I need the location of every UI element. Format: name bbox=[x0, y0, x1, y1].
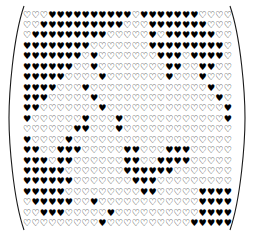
heart-outline-icon: ♡ bbox=[173, 166, 181, 175]
heart-outline-icon: ♡ bbox=[224, 51, 232, 60]
heart-outline-icon: ♡ bbox=[182, 135, 190, 144]
heart-outline-icon: ♡ bbox=[148, 197, 156, 206]
heart-outline-icon: ♡ bbox=[215, 114, 223, 123]
heart-outline-icon: ♡ bbox=[115, 41, 123, 50]
heart-filled-icon: ♥ bbox=[48, 51, 56, 60]
heart-outline-icon: ♡ bbox=[73, 114, 81, 123]
heart-filled-icon: ♥ bbox=[40, 51, 48, 60]
heart-outline-icon: ♡ bbox=[115, 62, 123, 71]
heart-outline-icon: ♡ bbox=[40, 124, 48, 133]
heart-outline-icon: ♡ bbox=[173, 124, 181, 133]
heart-filled-icon: ♥ bbox=[90, 62, 98, 71]
heart-outline-icon: ♡ bbox=[31, 20, 39, 29]
heart-outline-icon: ♡ bbox=[82, 208, 90, 217]
heart-outline-icon: ♡ bbox=[224, 30, 232, 39]
heart-outline-icon: ♡ bbox=[123, 30, 131, 39]
heart-outline-icon: ♡ bbox=[165, 187, 173, 196]
heart-filled-icon: ♥ bbox=[90, 51, 98, 60]
heart-outline-icon: ♡ bbox=[65, 218, 73, 227]
heart-filled-icon: ♥ bbox=[165, 72, 173, 81]
heart-outline-icon: ♡ bbox=[56, 218, 64, 227]
heart-filled-icon: ♥ bbox=[182, 10, 190, 19]
heart-outline-icon: ♡ bbox=[182, 93, 190, 102]
heart-filled-icon: ♥ bbox=[48, 72, 56, 81]
heart-outline-icon: ♡ bbox=[65, 124, 73, 133]
heart-outline-icon: ♡ bbox=[215, 83, 223, 92]
heart-filled-icon: ♥ bbox=[207, 62, 215, 71]
heart-outline-icon: ♡ bbox=[199, 83, 207, 92]
heart-outline-icon: ♡ bbox=[215, 135, 223, 144]
heart-filled-icon: ♥ bbox=[40, 72, 48, 81]
heart-filled-icon: ♥ bbox=[199, 41, 207, 50]
heart-outline-icon: ♡ bbox=[90, 176, 98, 185]
heart-outline-icon: ♡ bbox=[31, 218, 39, 227]
heart-outline-icon: ♡ bbox=[115, 72, 123, 81]
heart-filled-icon: ♥ bbox=[65, 41, 73, 50]
heart-outline-icon: ♡ bbox=[115, 187, 123, 196]
heart-outline-icon: ♡ bbox=[123, 187, 131, 196]
heart-outline-icon: ♡ bbox=[207, 124, 215, 133]
heart-outline-icon: ♡ bbox=[132, 20, 140, 29]
heart-outline-icon: ♡ bbox=[115, 103, 123, 112]
heart-outline-icon: ♡ bbox=[40, 145, 48, 154]
heart-filled-icon: ♥ bbox=[224, 218, 232, 227]
heart-outline-icon: ♡ bbox=[157, 124, 165, 133]
heart-outline-icon: ♡ bbox=[132, 30, 140, 39]
heart-outline-icon: ♡ bbox=[132, 135, 140, 144]
heart-filled-icon: ♥ bbox=[65, 10, 73, 19]
heart-filled-icon: ♥ bbox=[165, 156, 173, 165]
heart-filled-icon: ♥ bbox=[48, 197, 56, 206]
heart-outline-icon: ♡ bbox=[199, 156, 207, 165]
heart-outline-icon: ♡ bbox=[157, 208, 165, 217]
heart-outline-icon: ♡ bbox=[65, 72, 73, 81]
heart-filled-icon: ♥ bbox=[182, 41, 190, 50]
heart-filled-icon: ♥ bbox=[140, 187, 148, 196]
heart-outline-icon: ♡ bbox=[56, 135, 64, 144]
heart-outline-icon: ♡ bbox=[73, 93, 81, 102]
heart-outline-icon: ♡ bbox=[190, 93, 198, 102]
heart-outline-icon: ♡ bbox=[82, 62, 90, 71]
heart-filled-icon: ♥ bbox=[40, 176, 48, 185]
heart-filled-icon: ♥ bbox=[98, 20, 106, 29]
heart-outline-icon: ♡ bbox=[107, 83, 115, 92]
heart-outline-icon: ♡ bbox=[157, 176, 165, 185]
heart-outline-icon: ♡ bbox=[90, 145, 98, 154]
heart-outline-icon: ♡ bbox=[165, 83, 173, 92]
heart-outline-icon: ♡ bbox=[65, 83, 73, 92]
heart-filled-icon: ♥ bbox=[82, 20, 90, 29]
heart-filled-icon: ♥ bbox=[48, 176, 56, 185]
heart-outline-icon: ♡ bbox=[123, 208, 131, 217]
heart-outline-icon: ♡ bbox=[132, 51, 140, 60]
heart-outline-icon: ♡ bbox=[48, 103, 56, 112]
heart-filled-icon: ♥ bbox=[215, 41, 223, 50]
heart-filled-icon: ♥ bbox=[207, 30, 215, 39]
heart-filled-icon: ♥ bbox=[31, 187, 39, 196]
heart-outline-icon: ♡ bbox=[107, 103, 115, 112]
heart-outline-icon: ♡ bbox=[148, 83, 156, 92]
heart-filled-icon: ♥ bbox=[173, 145, 181, 154]
heart-outline-icon: ♡ bbox=[73, 208, 81, 217]
heart-filled-icon: ♥ bbox=[173, 30, 181, 39]
heart-outline-icon: ♡ bbox=[199, 135, 207, 144]
heart-filled-icon: ♥ bbox=[199, 187, 207, 196]
heart-outline-icon: ♡ bbox=[165, 218, 173, 227]
heart-filled-icon: ♥ bbox=[199, 30, 207, 39]
heart-filled-icon: ♥ bbox=[31, 41, 39, 50]
heart-outline-icon: ♡ bbox=[148, 51, 156, 60]
heart-outline-icon: ♡ bbox=[115, 166, 123, 175]
heart-outline-icon: ♡ bbox=[73, 62, 81, 71]
heart-outline-icon: ♡ bbox=[224, 41, 232, 50]
heart-outline-icon: ♡ bbox=[123, 20, 131, 29]
heart-outline-icon: ♡ bbox=[115, 30, 123, 39]
heart-outline-icon: ♡ bbox=[115, 208, 123, 217]
heart-outline-icon: ♡ bbox=[148, 156, 156, 165]
heart-filled-icon: ♥ bbox=[157, 156, 165, 165]
heart-outline-icon: ♡ bbox=[157, 197, 165, 206]
heart-outline-icon: ♡ bbox=[165, 93, 173, 102]
heart-filled-icon: ♥ bbox=[48, 187, 56, 196]
heart-filled-icon: ♥ bbox=[98, 103, 106, 112]
heart-outline-icon: ♡ bbox=[82, 135, 90, 144]
heart-filled-icon: ♥ bbox=[165, 20, 173, 29]
heart-filled-icon: ♥ bbox=[215, 208, 223, 217]
heart-outline-icon: ♡ bbox=[207, 166, 215, 175]
